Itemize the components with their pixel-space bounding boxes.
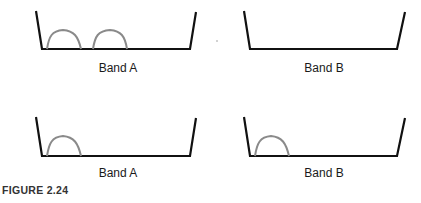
band-b-bottom-panel (244, 117, 405, 156)
band-a-top-label: Band A (78, 61, 158, 75)
band-a-top-panel (36, 11, 196, 49)
band-b-bottom-label: Band B (284, 166, 364, 180)
band-a-bottom-panel (36, 117, 196, 156)
band-a-top-peak-2 (93, 30, 127, 49)
band-a-top-peak-1 (47, 30, 81, 49)
band-a-bottom-label: Band A (78, 166, 158, 180)
stray-dot (216, 40, 218, 42)
band-b-top-outline (244, 11, 405, 49)
figure-caption: FIGURE 2.24 (2, 184, 68, 196)
band-b-bottom-peak (255, 136, 289, 156)
band-a-bottom-peak (47, 136, 81, 156)
band-b-top-label: Band B (284, 61, 364, 75)
band-b-top-panel (244, 11, 405, 49)
